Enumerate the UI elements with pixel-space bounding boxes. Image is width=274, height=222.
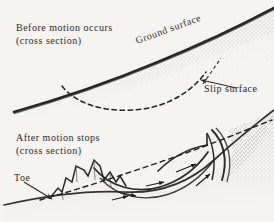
panel-before-heading-line1: Before motion occurs — [16, 22, 113, 33]
panel-after-heading-line2: (cross section) — [16, 145, 82, 157]
panel-after-heading-line1: After motion stops — [16, 132, 100, 143]
panel-before-heading-line2: (cross section) — [16, 35, 82, 47]
toe-label: Toe — [14, 172, 30, 183]
slip-surface-label: Slip surface — [204, 83, 258, 94]
slump-landslide-figure: Before motion occurs (cross section) Gro… — [0, 0, 274, 222]
